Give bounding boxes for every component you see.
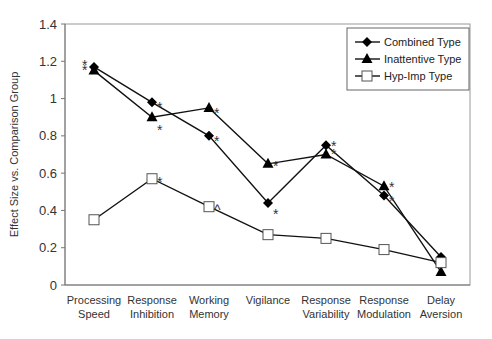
square-marker	[379, 245, 389, 255]
y-tick-label: 0	[50, 278, 57, 293]
x-tick-label: ResponseModulation	[357, 294, 411, 320]
significance-annotation: *	[157, 174, 163, 190]
significance-annotation: *	[214, 105, 220, 121]
triangle-marker	[379, 180, 390, 190]
x-tick-label: ResponseVariability	[301, 294, 351, 320]
legend-entry: Inattentive Type	[384, 53, 461, 65]
significance-annotation: *	[157, 99, 163, 115]
square-marker	[321, 233, 331, 243]
square-marker	[89, 215, 99, 225]
square-marker	[362, 71, 372, 81]
significance-annotation: ^	[214, 202, 221, 218]
x-tick-label: WorkingMemory	[189, 294, 229, 320]
y-axis-title: Effect Size vs. Comparison Group	[8, 72, 20, 237]
significance-annotation: *	[273, 206, 279, 222]
y-tick-label: 0.8	[39, 128, 57, 143]
square-marker	[263, 230, 273, 240]
y-tick-label: 1	[50, 91, 57, 106]
y-tick-label: 1.4	[39, 17, 57, 32]
legend-entry: Hyp-Imp Type	[384, 70, 452, 82]
significance-annotation: *	[273, 158, 279, 174]
y-tick-label: 0.2	[39, 240, 57, 255]
square-marker	[204, 202, 214, 212]
y-tick-label: 0.4	[39, 203, 57, 218]
series-line	[94, 71, 441, 272]
significance-annotation: *	[214, 133, 220, 149]
significance-annotation: *	[389, 179, 395, 195]
significance-annotation: *	[331, 146, 337, 162]
x-tick-label: DelayAversion	[420, 294, 463, 320]
square-marker	[147, 174, 157, 184]
x-tick-label: ProcessingSpeed	[67, 294, 121, 320]
triangle-marker	[204, 102, 215, 112]
legend-entry: Combined Type	[384, 36, 461, 48]
significance-annotation: *	[82, 57, 88, 73]
diamond-marker	[147, 97, 157, 107]
legend: Combined TypeInattentive TypeHyp-Imp Typ…	[347, 28, 469, 90]
x-tick-label: ResponseInhibition	[127, 294, 177, 320]
y-tick-label: 1.2	[39, 54, 57, 69]
x-tick-label: Vigilance	[246, 294, 290, 306]
line-chart: 00.20.40.60.811.21.4Effect Size vs. Comp…	[0, 0, 492, 339]
y-tick-label: 0.6	[39, 166, 57, 181]
significance-annotation: *	[157, 122, 163, 138]
square-marker	[436, 258, 446, 268]
